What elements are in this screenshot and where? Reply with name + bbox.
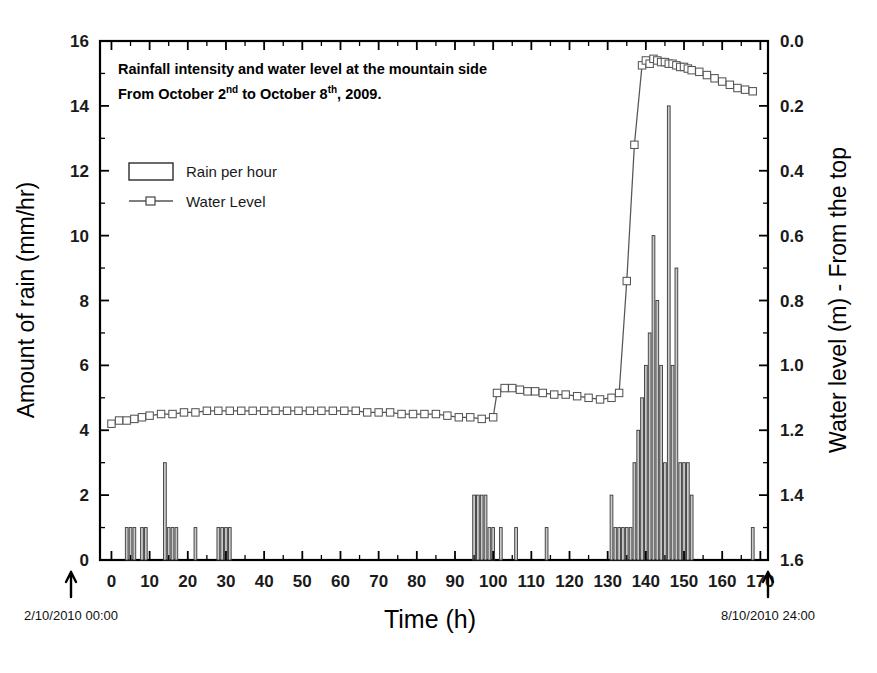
rain-bar	[751, 528, 754, 560]
water-level-marker	[226, 407, 233, 414]
water-level-marker	[432, 410, 439, 417]
water-level-marker	[108, 420, 115, 427]
water-level-marker	[489, 414, 496, 421]
x-tick-label: 40	[255, 572, 274, 591]
rain-bar	[141, 528, 144, 560]
legend-label-rain-per-hour: Rain per hour	[186, 163, 277, 180]
water-level-marker	[615, 389, 622, 396]
legend-label-water-level: Water Level	[186, 193, 265, 210]
rain-bar	[125, 528, 128, 560]
rain-bar	[515, 528, 518, 560]
x-tick-label: 10	[140, 572, 159, 591]
rain-bar	[473, 495, 476, 560]
water-level-marker	[409, 410, 416, 417]
water-level-marker	[203, 407, 210, 414]
rain-bar	[664, 463, 667, 560]
water-level-marker	[386, 409, 393, 416]
water-level-marker	[131, 415, 138, 422]
y-tick-label: 14	[70, 97, 89, 116]
water-level-marker	[169, 410, 176, 417]
y-axis-title: Amount of rain (mm/hr)	[13, 182, 39, 418]
rain-bar	[671, 365, 674, 560]
rain-bar	[675, 268, 678, 560]
water-level-marker	[734, 84, 741, 91]
water-level-marker	[215, 407, 222, 414]
water-level-marker	[467, 414, 474, 421]
rain-bar	[690, 495, 693, 560]
y2-tick-label: 0.0	[780, 32, 804, 51]
rain-bar	[488, 528, 491, 560]
title-part-b: to October 8	[238, 86, 327, 102]
y2-tick-label: 0.8	[780, 292, 804, 311]
x-tick-label: 20	[178, 572, 197, 591]
rain-bar	[228, 528, 231, 560]
y-tick-label: 10	[70, 227, 89, 246]
x-tick-label: 90	[446, 572, 465, 591]
rain-bar	[144, 528, 147, 560]
water-level-marker	[398, 410, 405, 417]
x-tick-label: 100	[479, 572, 507, 591]
water-level-marker	[726, 81, 733, 88]
water-level-marker	[138, 414, 145, 421]
y-tick-label: 8	[80, 292, 89, 311]
rain-bar	[679, 463, 682, 560]
x-axis-title: Time (h)	[384, 605, 476, 633]
title-part-c: , 2009.	[337, 86, 381, 102]
water-level-marker	[444, 412, 451, 419]
water-level-marker	[123, 417, 130, 424]
rain-bar	[644, 365, 647, 560]
title-superscript-nd: nd	[226, 84, 238, 95]
rain-bar	[217, 528, 220, 560]
x-tick-label: 120	[555, 572, 583, 591]
rain-bar	[614, 528, 617, 560]
water-level-marker	[718, 78, 725, 85]
x-tick-label: 80	[407, 572, 426, 591]
water-level-marker	[295, 407, 302, 414]
x-tick-label: 60	[331, 572, 350, 591]
water-level-marker	[749, 88, 756, 95]
x-tick-label: 50	[293, 572, 312, 591]
water-level-marker	[573, 392, 580, 399]
y-tick-label: 16	[70, 32, 89, 51]
x-tick-label: 110	[518, 572, 545, 591]
title-part-a: From October 2	[118, 86, 226, 102]
water-level-marker	[238, 407, 245, 414]
legend-marker-water-level	[146, 197, 155, 205]
water-level-marker	[455, 414, 462, 421]
water-level-marker	[741, 86, 748, 93]
chart-title-line-2: From October 2nd to October 8th, 2009.	[118, 84, 381, 102]
y2-tick-label: 1.4	[780, 486, 804, 505]
rain-bar	[622, 528, 625, 560]
y2-tick-label: 1.6	[780, 551, 804, 570]
y-tick-label: 4	[80, 421, 90, 440]
water-level-marker	[375, 409, 382, 416]
chart-title-line-1: Rainfall intensity and water level at th…	[118, 61, 487, 77]
water-level-marker	[688, 66, 695, 73]
rain-bar	[686, 463, 689, 560]
water-level-marker	[272, 407, 279, 414]
water-level-marker	[516, 386, 523, 393]
water-level-marker	[249, 407, 256, 414]
water-level-marker	[283, 407, 290, 414]
y2-tick-label: 0.2	[780, 97, 804, 116]
x-tick-label: 0	[107, 572, 116, 591]
y2-tick-label: 0.6	[780, 227, 804, 246]
rain-bar	[545, 528, 548, 560]
rain-bar	[194, 528, 197, 560]
rain-bar	[175, 528, 178, 560]
water-level-marker	[623, 277, 630, 284]
water-level-marker	[115, 417, 122, 424]
y2-tick-label: 1.2	[780, 421, 804, 440]
water-level-marker	[711, 75, 718, 82]
rainfall-water-level-chart: 0102030405060708090100110120130140150160…	[0, 0, 877, 673]
water-level-marker	[562, 391, 569, 398]
x-tick-label: 30	[217, 572, 236, 591]
rain-bar	[171, 528, 174, 560]
water-level-marker	[478, 415, 485, 422]
rain-bar	[484, 495, 487, 560]
water-level-marker	[596, 396, 603, 403]
water-level-marker	[608, 394, 615, 401]
annotation-start-label: 2/10/2010 00:00	[24, 608, 118, 623]
rain-bar	[637, 430, 640, 560]
x-tick-label: 130	[593, 572, 621, 591]
